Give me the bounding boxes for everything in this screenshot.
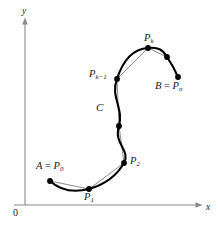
label-start-point: A = P0 <box>36 161 63 172</box>
label-pk-minus-1: Pk−1 <box>89 69 107 80</box>
label-end-equals: = <box>161 80 172 91</box>
point-dot <box>47 178 53 184</box>
y-axis-label: y <box>22 7 26 17</box>
label-p1: P1 <box>84 192 94 203</box>
origin-label: 0 <box>13 208 18 218</box>
point-dot <box>114 76 120 82</box>
x-axis-label: x <box>206 203 210 213</box>
label-p2-subscript: 2 <box>136 160 139 167</box>
figure-canvas: y x 0 A = P0 P1 P2 Pk−1 Pk B = Pn C <box>0 0 220 232</box>
point-dot <box>164 54 170 60</box>
inscribed-polygon-chords <box>50 48 178 189</box>
point-dot <box>121 160 127 166</box>
label-p1-subscript: 1 <box>90 196 93 203</box>
label-end-subscript: n <box>179 85 182 92</box>
label-pkm1-subscript: k−1 <box>95 73 106 80</box>
y-axis <box>22 18 28 206</box>
label-pk-subscript: k <box>150 37 153 44</box>
label-curve-c: C <box>96 102 103 113</box>
label-end-point: B = Pn <box>155 81 182 92</box>
x-axis <box>14 202 203 208</box>
y-axis-arrow-icon <box>22 18 28 25</box>
point-dot <box>116 123 122 129</box>
curve-diagram-svg <box>0 0 220 232</box>
point-dot <box>145 45 151 51</box>
label-start-equals: = <box>42 160 53 171</box>
x-axis-arrow-icon <box>196 202 203 208</box>
label-pk: Pk <box>144 33 154 44</box>
label-start-subscript: 0 <box>60 165 63 172</box>
label-p2: P2 <box>130 156 140 167</box>
curve-path-c <box>50 48 178 191</box>
